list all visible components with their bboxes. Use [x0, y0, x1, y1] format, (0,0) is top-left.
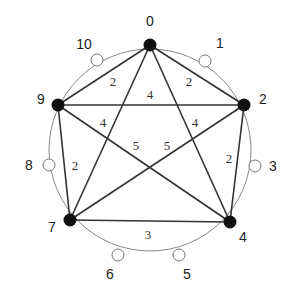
open-node-10	[91, 54, 103, 66]
edge-weight-label: 2	[226, 151, 233, 166]
edge-weight-label: 2	[186, 74, 193, 89]
edge-weight-label: 2	[72, 158, 79, 173]
node-label-8: 8	[25, 157, 33, 173]
node-label-3: 3	[269, 158, 277, 174]
node-label-0: 0	[146, 13, 154, 29]
edge-weight-label: 4	[147, 87, 154, 102]
node-label-7: 7	[48, 219, 56, 235]
edge-weight-label: 5	[133, 138, 140, 153]
edge-weights-group: 2244455223	[72, 74, 233, 242]
edge-weight-label: 3	[145, 227, 152, 242]
filled-node-9	[52, 99, 65, 112]
open-node-5	[173, 249, 185, 261]
filled-node-4	[224, 216, 237, 229]
filled-node-7	[64, 214, 77, 227]
edge-weight-label: 4	[192, 115, 199, 130]
open-node-3	[249, 160, 261, 172]
node-label-9: 9	[37, 91, 45, 107]
node-label-2: 2	[259, 91, 267, 107]
filled-node-0	[144, 39, 157, 52]
open-node-6	[112, 249, 124, 261]
node-label-10: 10	[76, 36, 92, 52]
edge-7-4	[70, 220, 230, 222]
node-label-4: 4	[239, 229, 247, 245]
edge-weight-label: 2	[110, 74, 117, 89]
edge-weight-label: 4	[100, 115, 107, 130]
open-node-1	[199, 55, 211, 67]
node-label-5: 5	[183, 266, 191, 282]
filled-node-2	[238, 99, 251, 112]
edge-weight-label: 5	[164, 138, 171, 153]
node-label-6: 6	[106, 266, 114, 282]
weighted-graph-diagram: 2244455223 135681002479	[0, 0, 297, 298]
node-label-1: 1	[216, 35, 224, 51]
open-node-8	[43, 159, 55, 171]
